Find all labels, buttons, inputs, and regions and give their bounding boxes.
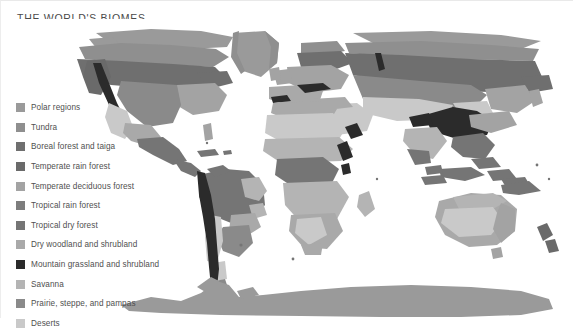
legend-label-deserts: Deserts — [31, 319, 60, 328]
legend-item-tropical-rain-forest[interactable]: Tropical rain forest — [16, 196, 181, 216]
legend-item-prairie-steppe-and-pampas[interactable]: Prairie, steppe, and pampas — [16, 294, 181, 314]
legend-label-dry-woodland-and-shrubland: Dry woodland and shrubland — [31, 240, 137, 249]
map-legend: Polar regions Tundra Boreal forest and t… — [16, 98, 181, 332]
legend-swatch-dry-woodland-and-shrubland — [16, 240, 25, 249]
legend-label-mountain-grassland-and-shrubland: Mountain grassland and shrubland — [31, 260, 159, 269]
legend-item-boreal-forest-and-taiga[interactable]: Boreal forest and taiga — [16, 137, 181, 157]
legend-swatch-tropical-dry-forest — [16, 221, 25, 230]
legend-swatch-deserts — [16, 319, 25, 328]
legend-swatch-tropical-rain-forest — [16, 201, 25, 210]
legend-item-polar-regions[interactable]: Polar regions — [16, 98, 181, 118]
legend-item-tropical-dry-forest[interactable]: Tropical dry forest — [16, 216, 181, 236]
legend-item-deserts[interactable]: Deserts — [16, 314, 181, 332]
legend-label-temperate-deciduous-forest: Temperate deciduous forest — [31, 182, 134, 191]
legend-item-savanna[interactable]: Savanna — [16, 274, 181, 294]
legend-item-temperate-rain-forest[interactable]: Temperate rain forest — [16, 157, 181, 177]
legend-item-mountain-grassland-and-shrubland[interactable]: Mountain grassland and shrubland — [16, 255, 181, 275]
legend-swatch-mountain-grassland-and-shrubland — [16, 260, 25, 269]
legend-item-tundra[interactable]: Tundra — [16, 118, 181, 138]
legend-swatch-savanna — [16, 280, 25, 289]
legend-swatch-polar-regions — [16, 103, 25, 112]
legend-label-tundra: Tundra — [31, 123, 57, 132]
legend-label-savanna: Savanna — [31, 280, 64, 289]
legend-swatch-temperate-deciduous-forest — [16, 182, 25, 191]
legend-label-tropical-dry-forest: Tropical dry forest — [31, 221, 98, 230]
legend-label-tropical-rain-forest: Tropical rain forest — [31, 201, 100, 210]
legend-swatch-prairie-steppe-and-pampas — [16, 299, 25, 308]
legend-swatch-boreal-forest-and-taiga — [16, 142, 25, 151]
legend-item-temperate-deciduous-forest[interactable]: Temperate deciduous forest — [16, 176, 181, 196]
legend-label-polar-regions: Polar regions — [31, 103, 80, 112]
legend-label-prairie-steppe-and-pampas: Prairie, steppe, and pampas — [31, 299, 136, 308]
legend-swatch-temperate-rain-forest — [16, 162, 25, 171]
legend-swatch-tundra — [16, 123, 25, 132]
legend-item-dry-woodland-and-shrubland[interactable]: Dry woodland and shrubland — [16, 235, 181, 255]
legend-label-boreal-forest-and-taiga: Boreal forest and taiga — [31, 142, 115, 151]
legend-label-temperate-rain-forest: Temperate rain forest — [31, 162, 110, 171]
